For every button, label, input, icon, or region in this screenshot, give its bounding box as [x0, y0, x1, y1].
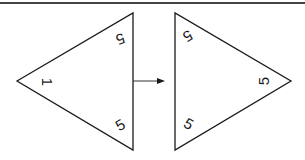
right-triangle-label-bottom-left: 5 — [181, 114, 197, 133]
left-triangle: 1 5 5 — [17, 13, 133, 150]
left-triangle-label-bottom-right: 5 — [112, 115, 128, 134]
diagram-canvas: 1 5 5 5 5 5 — [0, 0, 305, 160]
left-triangle-label-top-right: 5 — [114, 30, 128, 49]
right-triangle: 5 5 5 — [175, 13, 291, 150]
right-triangle-shape — [175, 13, 291, 150]
transform-arrow — [133, 78, 165, 84]
right-triangle-label-top-left: 5 — [180, 27, 196, 46]
left-triangle-label-left-vertex: 1 — [39, 78, 56, 86]
arrow-head-icon — [157, 78, 165, 84]
diagram-svg: 1 5 5 5 5 5 — [0, 0, 305, 160]
right-triangle-label-right-vertex: 5 — [255, 77, 272, 85]
